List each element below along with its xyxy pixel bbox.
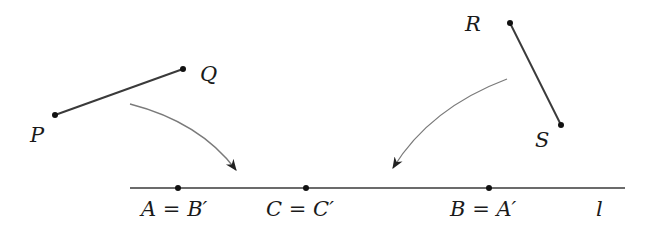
label-c: C bbox=[266, 197, 282, 221]
label-p: P bbox=[30, 125, 44, 146]
label-b: B bbox=[450, 197, 465, 221]
equals-sign: = bbox=[163, 197, 181, 221]
point-b-a-prime bbox=[486, 185, 492, 191]
label-a: A bbox=[141, 197, 156, 221]
label-a-eq-b-prime: A = B′ bbox=[141, 199, 207, 220]
point-p bbox=[52, 112, 58, 118]
point-q bbox=[180, 66, 186, 72]
arrow-rs-to-line bbox=[393, 79, 507, 168]
segment-rs bbox=[510, 23, 561, 125]
arrow-pq-to-line bbox=[130, 104, 236, 170]
label-a-prime: A′ bbox=[496, 197, 516, 221]
point-s bbox=[558, 122, 564, 128]
point-c-c-prime bbox=[303, 185, 309, 191]
label-c-prime: C′ bbox=[313, 197, 334, 221]
label-b-eq-a-prime: B = A′ bbox=[450, 199, 516, 220]
point-a-b-prime bbox=[175, 185, 181, 191]
label-r: R bbox=[465, 14, 481, 35]
label-b-prime: B′ bbox=[187, 197, 207, 221]
point-r bbox=[507, 20, 513, 26]
diagram-canvas: P Q R S A = B′ C = C′ B = A′ l bbox=[0, 0, 653, 234]
label-c-eq-c-prime: C = C′ bbox=[266, 199, 334, 220]
equals-sign: = bbox=[472, 197, 490, 221]
label-q: Q bbox=[200, 64, 217, 85]
equals-sign: = bbox=[289, 197, 307, 221]
label-s: S bbox=[535, 130, 549, 151]
label-line-l: l bbox=[596, 199, 603, 220]
segment-pq bbox=[55, 69, 183, 115]
